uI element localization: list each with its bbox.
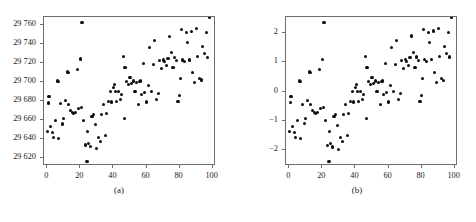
- x-tick-mark: [212, 165, 213, 168]
- y-tick-mark: [40, 62, 43, 63]
- x-tick-mark: [112, 165, 113, 168]
- data-point: [417, 59, 420, 62]
- data-point: [342, 113, 345, 116]
- y-tick-mark: [40, 24, 43, 25]
- data-point: [205, 31, 208, 34]
- data-point: [133, 90, 136, 93]
- data-point: [308, 71, 311, 74]
- data-point: [334, 113, 337, 116]
- y-tick-mark: [40, 81, 43, 82]
- plot-area-b: [285, 16, 457, 165]
- data-point: [193, 81, 196, 84]
- data-point: [66, 71, 69, 74]
- data-point: [105, 112, 108, 115]
- y-tick-mark: [282, 120, 285, 121]
- y-tick-mark: [282, 149, 285, 150]
- data-point: [190, 30, 193, 33]
- data-point: [143, 91, 146, 94]
- data-point: [389, 84, 392, 87]
- x-tick-mark: [179, 165, 180, 168]
- data-point: [104, 134, 107, 137]
- data-point: [346, 134, 349, 137]
- scatter-points-a: [44, 17, 214, 164]
- data-point: [316, 111, 319, 114]
- data-point: [123, 117, 126, 120]
- data-point: [365, 117, 368, 120]
- data-point: [95, 147, 98, 150]
- x-tick-label: 100: [434, 172, 474, 180]
- data-point: [327, 160, 330, 163]
- y-tick-label: 29 620: [0, 153, 36, 161]
- data-point: [339, 136, 342, 139]
- data-point: [120, 93, 123, 96]
- data-point: [110, 100, 113, 103]
- data-point: [324, 119, 327, 122]
- data-point: [351, 90, 354, 93]
- data-point: [165, 64, 168, 67]
- data-point: [176, 100, 179, 103]
- data-point: [109, 90, 112, 93]
- data-point: [435, 81, 438, 84]
- data-point: [303, 122, 306, 125]
- data-point: [361, 98, 364, 101]
- data-point: [76, 68, 79, 71]
- data-point: [119, 98, 122, 101]
- data-point: [59, 102, 62, 105]
- data-point: [74, 111, 77, 114]
- x-tick-mark: [146, 165, 147, 168]
- data-point: [402, 67, 405, 70]
- data-point: [113, 83, 116, 86]
- data-point: [178, 94, 181, 97]
- data-point: [203, 52, 206, 55]
- figure-two-panel-scatter: 29 62029 64029 66029 68029 70029 72029 7…: [0, 0, 476, 222]
- data-point: [180, 28, 183, 31]
- data-point: [415, 55, 418, 58]
- data-point: [57, 137, 60, 140]
- y-tick-label: 0: [238, 87, 278, 95]
- data-point: [399, 92, 402, 95]
- data-point: [123, 66, 126, 69]
- data-point: [139, 79, 142, 82]
- data-point: [407, 64, 410, 67]
- data-point: [375, 90, 378, 93]
- data-point: [62, 117, 65, 120]
- data-point: [296, 119, 299, 122]
- data-point: [152, 63, 155, 66]
- data-point: [322, 21, 325, 24]
- data-point: [145, 100, 148, 103]
- data-point: [54, 119, 57, 122]
- data-point: [85, 160, 88, 163]
- data-point: [299, 137, 302, 140]
- data-point: [188, 58, 191, 61]
- data-point: [357, 100, 360, 103]
- data-point: [410, 34, 413, 37]
- data-point: [365, 66, 368, 69]
- x-tick-mark: [388, 165, 389, 168]
- data-point: [67, 103, 70, 106]
- data-point: [47, 101, 50, 104]
- x-tick-label: 100: [192, 172, 232, 180]
- data-point: [87, 142, 90, 145]
- data-point: [304, 117, 307, 120]
- data-point: [99, 140, 102, 143]
- data-point: [328, 130, 331, 133]
- data-point: [390, 46, 393, 49]
- x-tick-mark: [421, 165, 422, 168]
- data-point: [400, 59, 403, 62]
- y-tick-label: 29 640: [0, 134, 36, 142]
- data-point: [427, 31, 430, 34]
- data-point: [57, 80, 60, 83]
- data-point: [86, 130, 89, 133]
- data-point: [344, 103, 347, 106]
- x-tick-mark: [354, 165, 355, 168]
- y-tick-mark: [40, 138, 43, 139]
- data-point: [362, 93, 365, 96]
- data-point: [142, 62, 145, 65]
- data-point: [438, 55, 441, 58]
- data-point: [160, 67, 163, 70]
- y-tick-mark: [282, 32, 285, 33]
- data-point: [100, 113, 103, 116]
- y-tick-label: 2: [238, 28, 278, 36]
- data-point: [384, 62, 387, 65]
- data-point: [421, 77, 424, 80]
